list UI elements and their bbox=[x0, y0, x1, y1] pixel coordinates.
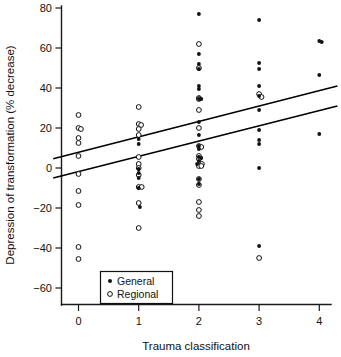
regional-fit bbox=[53, 106, 337, 178]
data-point bbox=[197, 62, 201, 66]
data-point bbox=[137, 176, 141, 180]
data-point bbox=[195, 162, 199, 166]
y-tick-label: 80 bbox=[40, 2, 52, 14]
data-point bbox=[257, 61, 261, 65]
x-tick-label: 0 bbox=[75, 315, 81, 327]
data-point bbox=[199, 97, 203, 101]
data-point bbox=[76, 136, 81, 141]
y-tick-label: −40 bbox=[33, 242, 52, 254]
y-tick-label: 20 bbox=[40, 122, 52, 134]
data-point bbox=[257, 94, 261, 98]
data-point bbox=[197, 126, 202, 131]
data-point bbox=[136, 155, 141, 160]
data-point bbox=[197, 214, 202, 219]
data-point bbox=[136, 133, 141, 138]
data-point bbox=[76, 245, 81, 250]
data-point bbox=[197, 147, 201, 151]
data-point bbox=[257, 108, 261, 112]
data-point bbox=[137, 171, 141, 175]
data-point bbox=[136, 226, 141, 231]
data-point bbox=[197, 67, 201, 71]
data-point bbox=[136, 201, 141, 206]
data-point bbox=[76, 203, 81, 208]
data-point bbox=[257, 138, 261, 142]
data-point bbox=[76, 257, 81, 262]
data-point bbox=[137, 142, 141, 146]
data-points-regional bbox=[76, 42, 264, 262]
legend-label-regional: Regional bbox=[117, 288, 158, 300]
data-point bbox=[197, 208, 202, 213]
legend-marker-general bbox=[108, 279, 112, 283]
data-point bbox=[197, 52, 201, 56]
data-point bbox=[257, 18, 261, 22]
data-point bbox=[76, 172, 81, 177]
data-point bbox=[317, 73, 321, 77]
data-point bbox=[137, 167, 141, 171]
data-point bbox=[257, 84, 261, 88]
y-tick-label: 60 bbox=[40, 42, 52, 54]
data-point bbox=[76, 189, 81, 194]
x-axis-ticks: 01234 bbox=[75, 305, 322, 328]
legend-label-general: General bbox=[117, 275, 154, 287]
data-point bbox=[199, 164, 204, 169]
data-point bbox=[197, 42, 202, 47]
data-point bbox=[197, 12, 201, 16]
x-tick-label: 1 bbox=[136, 315, 142, 327]
data-point bbox=[76, 141, 81, 146]
data-point bbox=[317, 132, 321, 136]
data-point bbox=[137, 186, 141, 190]
scatter-plot-figure: 806040200−20−40−60 01234 Trauma classifi… bbox=[0, 0, 341, 357]
data-point bbox=[197, 87, 201, 91]
data-point bbox=[197, 182, 201, 186]
data-point bbox=[197, 108, 202, 113]
x-tick-label: 3 bbox=[256, 315, 262, 327]
data-point bbox=[138, 205, 142, 209]
y-tick-label: −20 bbox=[33, 202, 52, 214]
data-point bbox=[257, 166, 261, 170]
data-point bbox=[257, 67, 261, 71]
data-point bbox=[76, 154, 81, 159]
chart-canvas: 806040200−20−40−60 01234 Trauma classifi… bbox=[0, 0, 341, 357]
y-axis-title: Depression of transformation (% decrease… bbox=[4, 45, 16, 264]
data-point bbox=[199, 156, 203, 160]
data-point bbox=[136, 105, 141, 110]
x-axis-title: Trauma classification bbox=[142, 340, 250, 352]
chart-legend: General Regional bbox=[101, 272, 173, 304]
data-point bbox=[197, 177, 201, 181]
data-point bbox=[76, 113, 81, 118]
data-point bbox=[257, 256, 262, 261]
legend-marker-regional bbox=[108, 292, 113, 297]
y-tick-label: 0 bbox=[46, 162, 52, 174]
data-point bbox=[197, 120, 201, 124]
data-point bbox=[136, 127, 141, 132]
y-tick-label: 40 bbox=[40, 82, 52, 94]
x-tick-label: 2 bbox=[196, 315, 202, 327]
data-point bbox=[257, 128, 261, 132]
data-point bbox=[257, 142, 261, 146]
data-point bbox=[137, 137, 141, 141]
x-tick-label: 4 bbox=[316, 315, 322, 327]
data-point bbox=[197, 133, 201, 137]
y-axis-ticks: 806040200−20−40−60 bbox=[33, 2, 61, 294]
data-point bbox=[197, 200, 202, 205]
data-point bbox=[79, 127, 84, 132]
y-tick-label: −60 bbox=[33, 282, 52, 294]
general-fit bbox=[53, 86, 337, 159]
data-point bbox=[320, 40, 324, 44]
data-point bbox=[257, 244, 261, 248]
